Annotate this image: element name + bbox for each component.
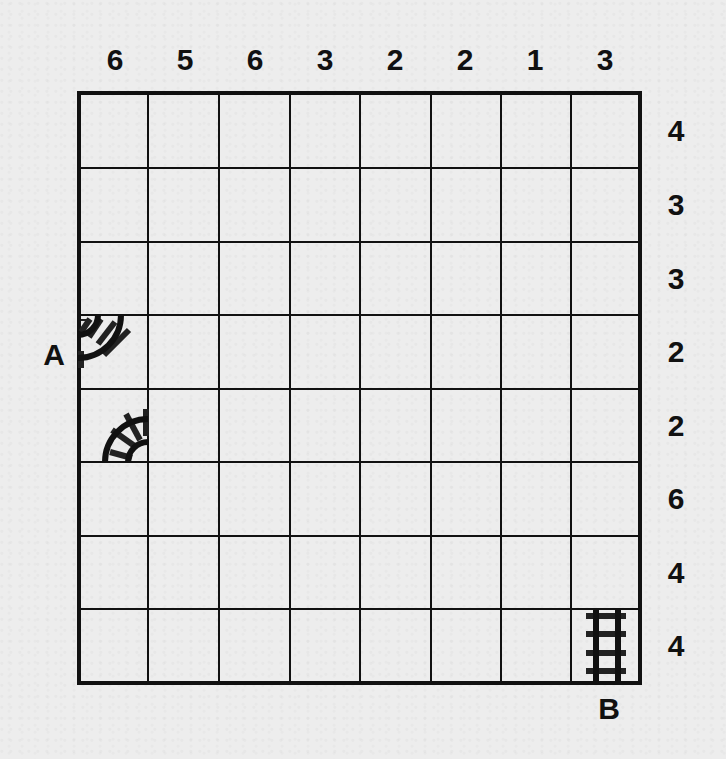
grid-cell[interactable] xyxy=(571,94,640,168)
grid-cell[interactable] xyxy=(219,94,290,168)
track-curve-icon xyxy=(78,315,129,368)
grid-cell[interactable] xyxy=(431,94,501,168)
track-curve-icon xyxy=(105,409,148,462)
track-straight-icon xyxy=(586,609,626,683)
grid-cell[interactable] xyxy=(360,94,431,168)
grid-cell[interactable] xyxy=(78,94,148,168)
grid-lines xyxy=(78,94,640,683)
grid-cell[interactable] xyxy=(148,94,219,168)
grid-cell[interactable] xyxy=(501,94,571,168)
puzzle-grid xyxy=(0,0,726,759)
grid-cell[interactable] xyxy=(290,94,360,168)
